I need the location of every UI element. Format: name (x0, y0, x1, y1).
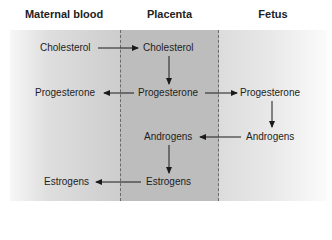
node-placenta-androgens: Androgens (144, 131, 192, 142)
node-fetal-androgens: Androgens (246, 131, 294, 142)
node-maternal-cholesterol: Cholesterol (40, 42, 91, 53)
node-fetal-progesterone: Progesterone (240, 87, 300, 98)
node-placenta-estrogens: Estrogens (146, 176, 191, 187)
node-maternal-progesterone: Progesterone (35, 87, 95, 98)
node-placenta-cholesterol: Cholesterol (143, 42, 194, 53)
node-maternal-estrogens: Estrogens (44, 176, 89, 187)
node-placenta-progesterone: Progesterone (138, 87, 198, 98)
